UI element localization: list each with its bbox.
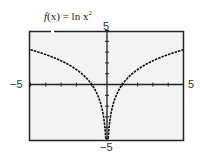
graph-window [0,0,200,155]
y-max-label: 5 [103,20,109,32]
function-title: f(x) = ln x2 [44,9,92,22]
x-max-label: 5 [188,78,194,90]
y-min-label: −5 [100,141,113,153]
x-min-label: −5 [10,78,23,90]
